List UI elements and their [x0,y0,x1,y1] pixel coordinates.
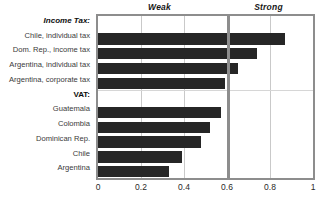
bar-row [98,134,313,149]
x-tick-label: 1 [296,182,329,192]
plot-surface [98,16,313,178]
bar-row [98,90,313,105]
bar[interactable] [98,63,238,74]
category-label: Chile [0,147,90,162]
bar-row [98,119,313,134]
category-label: Dominican Rep. [0,132,90,147]
category-label: Dom. Rep., income tax [0,43,90,58]
bar-row [98,163,313,178]
bar[interactable] [98,78,225,89]
x-tick-label: 0.6 [210,182,244,192]
bar-row [98,60,313,75]
category-label: Argentina [0,161,90,176]
category-label: Chile, individual tax [0,29,90,44]
value-axis-ticks: 00.20.40.60.81 [0,182,329,200]
chart-container: Weak Strong Income Tax:Chile, individual… [0,0,329,206]
bar[interactable] [98,151,182,162]
category-group-header: VAT: [0,88,90,103]
x-tick-label: 0 [81,182,115,192]
bar[interactable] [98,122,210,133]
bar-row [98,31,313,46]
bar[interactable] [98,136,201,147]
bar-row [98,149,313,164]
bar[interactable] [98,48,257,59]
bar[interactable] [98,107,221,118]
bar[interactable] [98,166,169,177]
bar[interactable] [98,33,285,44]
threshold-line [227,16,230,178]
plot-frame [96,14,315,180]
band-label-weak: Weak [97,2,222,12]
category-label: Guatemala [0,102,90,117]
bar-row [98,104,313,119]
category-label: Argentina, individual tax [0,58,90,73]
x-tick-label: 0.8 [253,182,287,192]
bar-row [98,45,313,60]
x-tick-label: 0.4 [167,182,201,192]
category-group-header: Income Tax: [0,14,90,29]
bar-series [98,16,313,178]
category-axis-labels: Income Tax:Chile, individual taxDom. Rep… [0,14,93,180]
category-label: Argentina, corporate tax [0,73,90,88]
x-tick-label: 0.2 [124,182,158,192]
band-label-strong: Strong [222,2,315,12]
category-label: Colombia [0,117,90,132]
bar-row [98,16,313,31]
bar-row [98,75,313,90]
